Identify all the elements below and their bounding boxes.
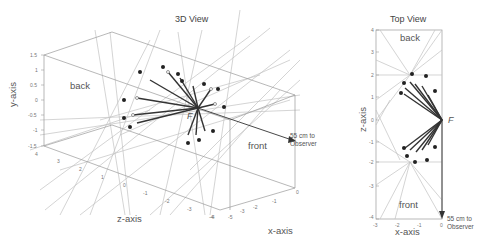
x-tick: -3 [373,222,377,228]
x-tick: 0 [440,222,443,228]
region-label-back-3d: back [70,80,90,91]
region-label-front-top: front [399,199,418,210]
region-label-front-3d: front [248,140,267,151]
y-tick: 1.5 [30,52,37,58]
axis-label-z: z-axis [117,213,142,224]
y-tick: 0.5 [30,82,37,88]
axis-label-x: x-axis [268,225,293,236]
axis-label-x-top: x-axis [395,226,420,237]
panel-top-view: Top View back front F 55 cm to Observer … [360,0,492,245]
panel-3d-view: 3D View back front F 55 cm to Observer y… [0,0,340,245]
x-tick: 0 [296,189,299,195]
observer-note-line-2: Observer [290,140,317,148]
y-tick: 1 [35,67,38,73]
z-tick: 4 [371,27,374,33]
y-tick: -0.5 [28,112,37,118]
y-tick: -1.5 [28,143,37,149]
x-tick: -3 [240,208,244,214]
axis-label-y: y-axis [7,82,18,107]
z-tick: -3 [369,183,373,189]
observer-note-line-1: 55 cm to [447,215,474,223]
x-tick: -5 [228,214,232,220]
z-tick: -2 [165,198,169,204]
z-tick: -4 [369,214,373,220]
plot-3d-canvas [0,0,340,245]
observer-note-3d: 55 cm to Observer [290,132,317,148]
y-tick: 0 [35,97,38,103]
y-tick: -1 [33,127,37,133]
z-tick: -3 [187,206,191,212]
panel-title-3d: 3D View [175,14,208,24]
z-tick: 2 [371,72,374,78]
z-tick: 3 [371,49,374,55]
z-tick: 2 [79,166,82,172]
x-tick: -1 [272,198,276,204]
focus-point-label-3d: F [187,111,193,121]
z-tick: 1 [101,174,104,180]
axis-label-z-top: z-axis [357,107,368,132]
plot-top-canvas [360,0,492,245]
observer-note-line-1: 55 cm to [290,132,317,140]
z-tick: -1 [143,190,147,196]
z-tick: 0 [123,182,126,188]
z-tick: -1 [369,139,373,145]
z-tick: -2 [369,159,373,165]
observer-note-top: 55 cm to Observer [447,215,474,231]
z-tick: 3 [57,158,60,164]
observer-note-line-2: Observer [447,223,474,231]
x-tick: -4 [210,214,214,220]
z-tick: 0 [371,117,374,123]
region-label-back-top: back [400,32,420,43]
x-tick: -2 [253,204,257,210]
z-tick: 1 [371,94,374,100]
focus-point-label-top: F [448,115,454,125]
panel-title-top: Top View [390,14,426,24]
z-tick: 4 [35,151,38,157]
